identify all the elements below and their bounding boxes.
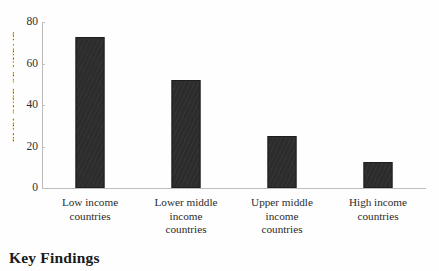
x-tick-label-line: Lower middle bbox=[131, 196, 241, 210]
bar-slot bbox=[42, 22, 138, 188]
y-tick-label: 80 bbox=[8, 16, 38, 28]
bar-slot bbox=[234, 22, 330, 188]
x-tick-label-line: income bbox=[227, 210, 337, 224]
x-tick-label: High incomecountries bbox=[323, 196, 433, 223]
y-tick-label: 20 bbox=[8, 141, 38, 153]
y-tick-label: 0 bbox=[8, 182, 38, 194]
bar bbox=[76, 37, 105, 188]
bar-series bbox=[42, 22, 426, 188]
x-tick-label: Upper middleincomecountries bbox=[227, 196, 337, 237]
x-tick-label-line: countries bbox=[35, 210, 145, 224]
bar bbox=[364, 162, 393, 188]
bar-slot bbox=[330, 22, 426, 188]
bar bbox=[172, 80, 201, 188]
y-tick-mark bbox=[42, 188, 45, 189]
key-findings-heading: Key Findings bbox=[9, 249, 100, 267]
bar bbox=[268, 136, 297, 188]
x-axis-line bbox=[42, 188, 426, 189]
x-tick-label-line: countries bbox=[323, 210, 433, 224]
y-tick-label: 60 bbox=[8, 58, 38, 70]
x-tick-label-line: income bbox=[131, 210, 241, 224]
x-tick-label: Lower middleincomecountries bbox=[131, 196, 241, 237]
x-tick-label-line: High income bbox=[323, 196, 433, 210]
x-tick-label-line: countries bbox=[131, 223, 241, 237]
x-axis-labels: Low incomecountriesLower middleincomecou… bbox=[42, 196, 426, 254]
x-tick-label-line: Upper middle bbox=[227, 196, 337, 210]
x-tick-label-line: countries bbox=[227, 223, 337, 237]
bar-slot bbox=[138, 22, 234, 188]
x-tick-label: Low incomecountries bbox=[35, 196, 145, 223]
y-axis-ticks: 020406080 bbox=[4, 0, 38, 190]
x-tick-label-line: Low income bbox=[35, 196, 145, 210]
chart-page: EMPLOYED OR UNPAID 020406080 Low incomec… bbox=[0, 0, 439, 271]
y-tick-label: 40 bbox=[8, 99, 38, 111]
